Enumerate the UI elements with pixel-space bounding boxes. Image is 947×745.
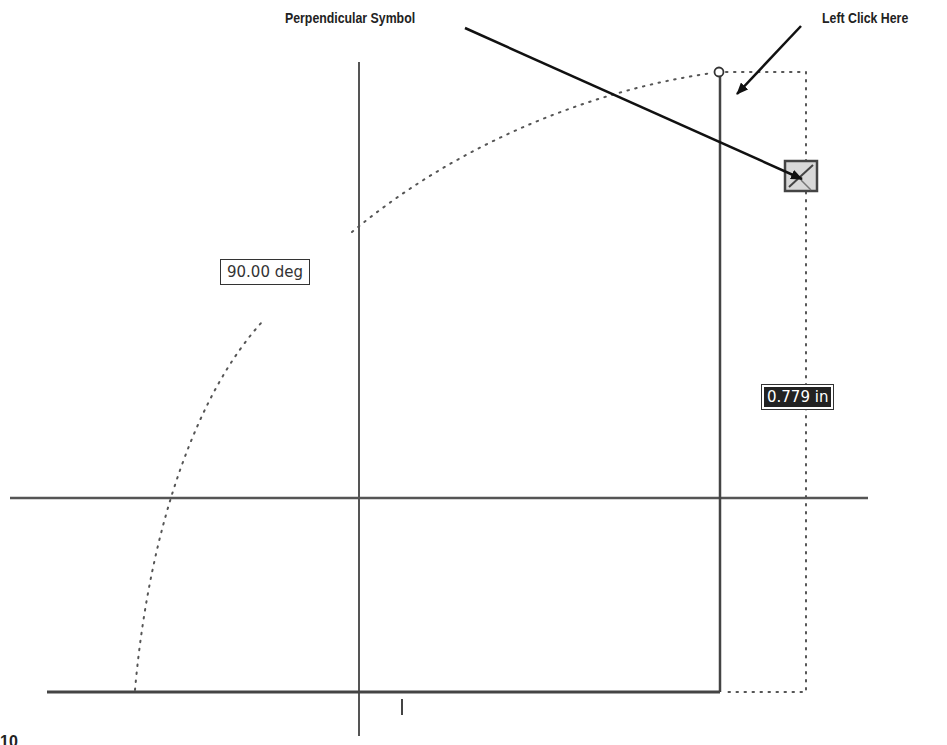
callout-arrow-left-click (737, 26, 801, 94)
dotted-arc-upper (352, 73, 712, 232)
angle-dimension-value: 90.00 deg (227, 263, 303, 281)
sketch-canvas[interactable] (0, 0, 947, 745)
circle-grip-icon[interactable] (715, 68, 724, 77)
figure-number: 10 (0, 733, 18, 745)
dotted-arc (135, 322, 262, 690)
callout-left-click-here: Left Click Here (822, 10, 908, 26)
angle-dimension-box[interactable]: 90.00 deg (220, 259, 310, 285)
perpendicular-constraint-icon[interactable] (785, 161, 817, 191)
length-dimension-value[interactable]: 0.779 in (764, 387, 831, 407)
length-dimension-input[interactable]: 0.779 in (761, 384, 834, 410)
callout-perpendicular-symbol: Perpendicular Symbol (285, 10, 415, 26)
callout-arrow-perpendicular (465, 28, 802, 179)
